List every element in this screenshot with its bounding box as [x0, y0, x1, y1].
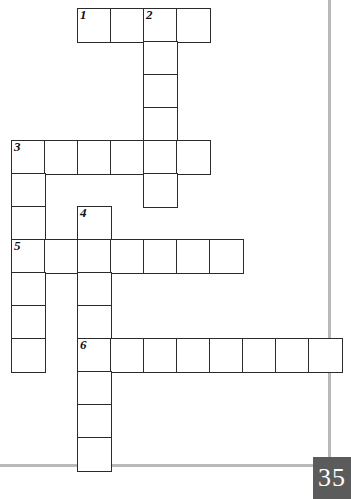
crossword-cell[interactable]: [143, 41, 178, 76]
crossword-cell[interactable]: [143, 140, 178, 175]
cell-number-6: 6: [80, 338, 87, 352]
cell-number-1: 1: [80, 8, 87, 22]
cell-number-5: 5: [14, 239, 21, 253]
crossword-cell[interactable]: [77, 239, 112, 274]
crossword-cell[interactable]: [143, 239, 178, 274]
crossword-cell[interactable]: [176, 8, 211, 43]
cell-number-2: 2: [146, 8, 153, 22]
crossword-cell[interactable]: 2: [143, 8, 178, 43]
crossword-cell[interactable]: [77, 437, 112, 472]
cell-number-4: 4: [80, 206, 87, 220]
crossword-cell[interactable]: [308, 338, 343, 373]
crossword-cell[interactable]: [209, 338, 244, 373]
crossword-cell[interactable]: 4: [77, 206, 112, 241]
crossword-cell[interactable]: 1: [77, 8, 112, 43]
crossword-cell[interactable]: [11, 206, 46, 241]
crossword-cell[interactable]: [143, 338, 178, 373]
crossword-cell[interactable]: [110, 140, 145, 175]
crossword-cell[interactable]: [209, 239, 244, 274]
crossword-cell[interactable]: [77, 371, 112, 406]
crossword-cell[interactable]: [11, 173, 46, 208]
crossword-cell[interactable]: [11, 338, 46, 373]
crossword-cell[interactable]: [44, 239, 79, 274]
crossword-cell[interactable]: 5: [11, 239, 46, 274]
crossword-cell[interactable]: [11, 305, 46, 340]
crossword-cell[interactable]: [110, 338, 145, 373]
crossword-cell[interactable]: 3: [11, 140, 46, 175]
crossword-cell[interactable]: [143, 173, 178, 208]
crossword-cell[interactable]: [143, 74, 178, 109]
page-number-badge: 35: [313, 457, 351, 499]
crossword-cell[interactable]: [176, 140, 211, 175]
crossword-cell[interactable]: [110, 239, 145, 274]
crossword-cell[interactable]: [176, 338, 211, 373]
crossword-cell[interactable]: [77, 404, 112, 439]
crossword-cell[interactable]: [176, 239, 211, 274]
crossword-cell[interactable]: [77, 140, 112, 175]
crossword-cell[interactable]: [242, 338, 277, 373]
crossword-cell[interactable]: [77, 305, 112, 340]
crossword-cell[interactable]: [275, 338, 310, 373]
crossword-cell[interactable]: [110, 8, 145, 43]
crossword-cell[interactable]: [11, 272, 46, 307]
crossword-cell[interactable]: [77, 272, 112, 307]
crossword-cell[interactable]: [143, 107, 178, 142]
crossword-cell[interactable]: 6: [77, 338, 112, 373]
crossword-cell[interactable]: [44, 140, 79, 175]
puzzle-page: 123456 35: [0, 0, 351, 499]
cell-number-3: 3: [14, 140, 21, 154]
crossword-grid[interactable]: 123456: [0, 0, 351, 499]
